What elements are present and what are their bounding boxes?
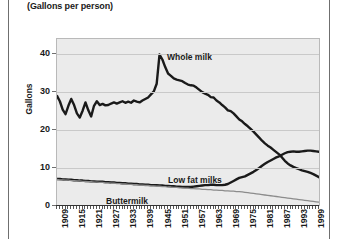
- y-tick-label-0: 0: [24, 200, 50, 210]
- x-tick-label-1921: 1921: [94, 209, 104, 228]
- x-tick-1962: [207, 206, 208, 209]
- x-tick-1926: [104, 206, 105, 209]
- x-tick-label-1993: 1993: [299, 209, 309, 228]
- x-tick-label-1915: 1915: [77, 209, 87, 228]
- x-tick-1987: [278, 206, 279, 209]
- x-tick-1939: [141, 206, 142, 209]
- x-tick-1975: [244, 206, 245, 209]
- x-tick-1998: [309, 206, 310, 209]
- x-tick-1932: [122, 206, 123, 209]
- left-border-rule: [8, 0, 9, 239]
- x-tick-1968: [224, 206, 225, 209]
- x-tick-1927: [107, 206, 108, 209]
- y-tick-stub-20: [52, 129, 56, 130]
- x-tick-1938: [139, 206, 140, 209]
- chart-figure: (Gallons per person) Gallons 010203040 1…: [0, 0, 338, 239]
- x-tick-label-1963: 1963: [214, 209, 224, 228]
- x-tick-1969: [227, 206, 228, 209]
- x-tick-1945: [159, 206, 160, 209]
- right-border-rule: [329, 0, 330, 239]
- y-tick-label-20: 20: [24, 124, 50, 134]
- x-tick-label-1939: 1939: [145, 209, 155, 228]
- x-tick-1951: [176, 206, 177, 209]
- y-axis-title: Gallons: [24, 69, 34, 129]
- x-tick-1986: [275, 206, 276, 209]
- y-tick-label-40: 40: [24, 48, 50, 58]
- x-tick-label-1975: 1975: [248, 209, 258, 228]
- x-tick-1993: [295, 206, 296, 209]
- series-label-whole-milk: Whole milk: [167, 52, 212, 62]
- x-tick-1974: [241, 206, 242, 209]
- x-tick-label-1969: 1969: [231, 209, 241, 228]
- x-tick-1957: [193, 206, 194, 209]
- y-tick-stub-40: [52, 53, 56, 54]
- x-tick-1999: [312, 206, 313, 209]
- y-tick-stub-10: [52, 167, 56, 168]
- x-tick-label-1945: 1945: [163, 209, 173, 228]
- x-tick-label-1987: 1987: [282, 209, 292, 228]
- x-tick-1920: [87, 206, 88, 209]
- x-tick-label-1909: 1909: [60, 209, 70, 228]
- x-tick-1944: [156, 206, 157, 209]
- x-tick-label-1981: 1981: [265, 209, 275, 228]
- y-tick-stub-30: [52, 91, 56, 92]
- x-tick-label-1951: 1951: [180, 209, 190, 228]
- series-label-low-fat-milks: Low fat milks: [168, 175, 222, 185]
- series-label-buttermilk: Buttermilk: [106, 196, 148, 206]
- y-tick-label-30: 30: [24, 86, 50, 96]
- x-tick-1980: [258, 206, 259, 209]
- x-tick-1921: [90, 206, 91, 209]
- x-tick-1981: [261, 206, 262, 209]
- x-tick-label-1957: 1957: [197, 209, 207, 228]
- x-tick-1963: [210, 206, 211, 209]
- x-tick-1909: [56, 206, 57, 209]
- x-tick-label-1933: 1933: [128, 209, 138, 228]
- chart-subtitle: (Gallons per person): [27, 1, 113, 11]
- x-tick-1992: [292, 206, 293, 209]
- y-tick-label-10: 10: [24, 162, 50, 172]
- x-tick-1914: [70, 206, 71, 209]
- x-tick-1933: [124, 206, 125, 209]
- x-tick-label-1927: 1927: [111, 209, 121, 228]
- gridline-20: [57, 130, 319, 131]
- gridline-10: [57, 168, 319, 169]
- x-tick-1915: [73, 206, 74, 209]
- x-tick-label-1999: 1999: [316, 209, 326, 228]
- gridline-30: [57, 92, 319, 93]
- series-line-whole-milk: [57, 55, 319, 178]
